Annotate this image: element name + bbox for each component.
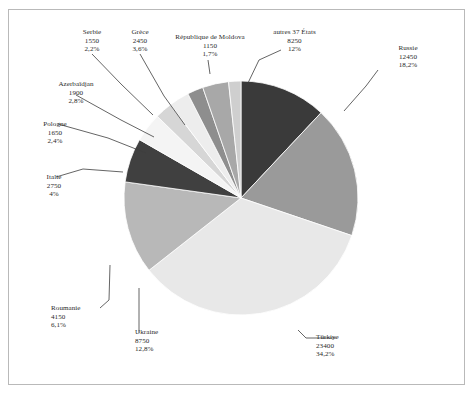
- pie-label-turkiye-percent: 34,2%: [316, 350, 378, 359]
- pie-label-roumanie-value: 4150: [51, 313, 121, 322]
- leader-line-russie: [344, 70, 378, 111]
- pie-label-pologne-name: Pologne: [22, 120, 88, 129]
- pie-label-russie-name: Russie: [378, 44, 438, 53]
- pie-label-pologne-value: 1650: [22, 129, 88, 138]
- pie-label-pologne: Pologne 1650 2,4%: [22, 120, 88, 146]
- pie-label-autres-value: 8250: [252, 37, 337, 46]
- pie-label-ukraine-name: Ukraine: [135, 328, 195, 337]
- pie-label-moldova-value: 1150: [155, 42, 265, 51]
- pie-label-moldova: République de Moldova 1150 1,7%: [155, 33, 265, 59]
- pie-label-italie-value: 2750: [25, 182, 83, 191]
- pie-label-turkiye-value: 23400: [316, 342, 378, 351]
- pie-label-autres-percent: 12%: [252, 45, 337, 54]
- pie-label-russie: Russie 12450 18,2%: [378, 44, 438, 70]
- pie-label-roumanie-name: Roumanie: [51, 304, 121, 313]
- pie-label-pologne-percent: 2,4%: [22, 137, 88, 146]
- pie-label-roumanie-percent: 6,1%: [51, 321, 121, 330]
- pie-label-turkiye: Türkiye 23400 34,2%: [316, 333, 378, 359]
- pie-label-autres: autres 37 États 8250 12%: [252, 28, 337, 54]
- pie-label-azerbaidjan-percent: 2,8%: [33, 97, 119, 106]
- pie-label-moldova-name: République de Moldova: [155, 33, 265, 42]
- leader-line-roumanie: [100, 265, 110, 308]
- pie-label-italie-name: Italie: [25, 173, 83, 182]
- pie-label-azerbaidjan: Azerbaïdjan 1900 2,8%: [33, 80, 119, 106]
- pie-label-italie: Italie 2750 4%: [25, 173, 83, 199]
- pie-label-ukraine-percent: 12,8%: [135, 345, 195, 354]
- pie-label-autres-name: autres 37 États: [252, 28, 337, 37]
- pie-label-ukraine-value: 8750: [135, 337, 195, 346]
- pie-label-moldova-percent: 1,7%: [155, 50, 265, 59]
- leader-line-moldova: [208, 60, 210, 74]
- pie-slices-group: [124, 81, 358, 315]
- pie-label-turkiye-name: Türkiye: [316, 333, 378, 342]
- pie-label-italie-percent: 4%: [25, 190, 83, 199]
- pie-label-azerbaidjan-name: Azerbaïdjan: [33, 80, 119, 89]
- pie-label-russie-value: 12450: [378, 53, 438, 62]
- pie-label-roumanie: Roumanie 4150 6,1%: [51, 304, 121, 330]
- pie-label-russie-percent: 18,2%: [378, 61, 438, 70]
- pie-label-azerbaidjan-value: 1900: [33, 89, 119, 98]
- pie-label-ukraine: Ukraine 8750 12,8%: [135, 328, 195, 354]
